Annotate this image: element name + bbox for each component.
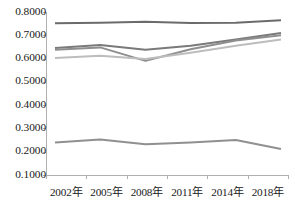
x-axis-tick-labels: 2002年2005年2008年2011年2014年2018年 (0, 0, 295, 201)
x-axis-tick-label: 2002年 (50, 183, 82, 199)
x-axis-tick-label: 2008年 (131, 183, 163, 199)
x-axis-tick-label: 2014年 (211, 183, 243, 199)
x-axis-tick-label: 2005年 (90, 183, 122, 199)
x-axis-tick-label: 2011年 (171, 183, 203, 199)
line-chart: 0.80000.70000.60000.50000.40000.30000.20… (0, 0, 295, 201)
x-axis-tick-label: 2018年 (252, 183, 284, 199)
